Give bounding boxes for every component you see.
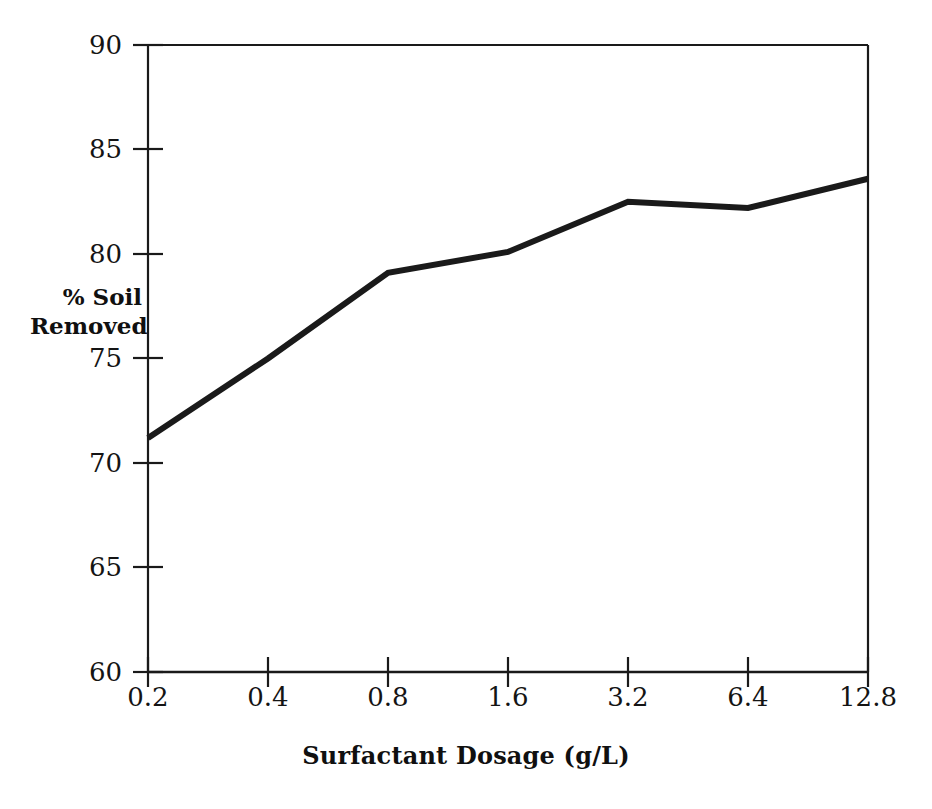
chart-figure: % Soil Removed 60 65 70 75 80 85 90 0.2 … (0, 0, 932, 809)
axis-frame (148, 45, 868, 672)
data-series-soil-removed (148, 179, 868, 438)
plot-area (0, 0, 932, 809)
